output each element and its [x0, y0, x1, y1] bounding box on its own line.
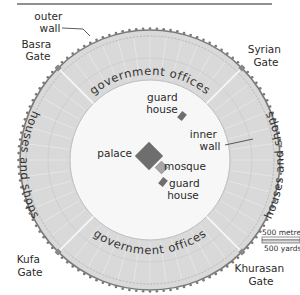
basra-gate-label: Basra Gate [21, 38, 54, 62]
scale-metric-label: 500 metres [262, 228, 300, 237]
outer-wall-leader [62, 28, 90, 36]
palace-label: palace [97, 147, 132, 159]
khurasan-gate-label: Khurasan Gate [235, 262, 288, 287]
scale-bar-imperial [262, 240, 300, 243]
scale-imperial-label: 500 yards [264, 244, 300, 253]
round-city-map: government offices government offices ho… [0, 0, 300, 295]
kufa-gate-label: Kufa Gate [17, 253, 44, 278]
mosque-label: mosque [164, 160, 206, 172]
syrian-gate-label: Syrian Gate [248, 43, 285, 68]
guard-house-north-label: guard house [146, 91, 181, 115]
outer-wall-label: outer wall [34, 10, 65, 34]
scale-bar-metric [262, 237, 300, 240]
scale-bar: 500 metres 500 yards [262, 228, 300, 253]
guard-house-south-label: guard house [167, 177, 203, 201]
